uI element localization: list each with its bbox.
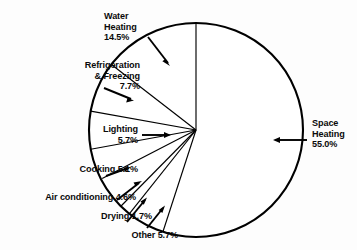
slice-label-space-heating: Space Heating 55.0% — [312, 118, 345, 150]
slice-label-air-conditioning: Air conditioning 4.6% — [4, 192, 136, 203]
chart-canvas: Water Heating 14.5% Refrigeration & Free… — [0, 0, 357, 250]
slice-label-lighting: Lighting 5.7% — [40, 124, 138, 145]
slice-label-water-heating: Water Heating 14.5% — [104, 11, 137, 43]
slice-label-drying: Drying 1.7% — [48, 211, 152, 222]
slice-label-other: Other 5.7% — [86, 230, 178, 241]
slice-label-refrigeration-and-freezing: Refrigeration & Freezing 7.7% — [34, 60, 140, 92]
slice-label-cooking: Cooking 5.1% — [26, 164, 138, 175]
